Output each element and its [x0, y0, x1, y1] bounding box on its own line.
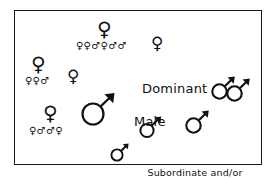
diagram-frame: ♀ ♀♀♂♀♂♂ ♀ ♀ ♀♀♂ ♀ ♀ ♀♂♂♀ Dominant Male — [14, 10, 262, 165]
subordinate-male-icon-center — [139, 114, 165, 139]
subordinate-male-icon-legend — [110, 141, 132, 162]
subordinate-male-icon-right-upper — [226, 76, 254, 103]
female-group-members-top: ♀♀♂♀♂♂ — [76, 41, 127, 51]
diagram-canvas: ♀ ♀♀♂♀♂♂ ♀ ♀ ♀♀♂ ♀ ♀ ♀♂♂♀ Dominant Male — [0, 0, 275, 178]
female-group-leader-lower-left: ♀ — [43, 103, 58, 123]
dominant-male-icon — [80, 89, 120, 127]
female-group-leader-left: ♀ — [31, 54, 46, 74]
female-group-leader-top: ♀ — [97, 19, 112, 39]
solitary-female-center-left: ♀ — [67, 68, 79, 85]
female-group-members-left: ♀♀♂ — [25, 76, 50, 86]
dominant-male-label-line1: Dominant — [142, 81, 207, 96]
subordinate-male-icon-right-lower — [185, 108, 213, 135]
subordinate-males-label: Subordinate and/or Satellite Males — [135, 141, 255, 178]
subordinate-males-label-line1: Subordinate and/or — [135, 167, 255, 178]
female-group-members-lower-left: ♀♂♂♀ — [29, 126, 63, 136]
solitary-female-upper-right: ♀ — [151, 35, 163, 52]
